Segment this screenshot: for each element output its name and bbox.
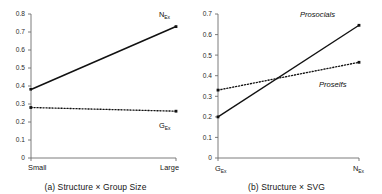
panel-b-ytick-5: 0.2 — [203, 113, 212, 120]
panel-a-ytick-7: 0.1 — [16, 136, 25, 143]
panel-b-plot: 0.7 0.6 0.5 0.4 0.3 0.2 0.1 0 Prosocials… — [191, 0, 382, 176]
panel-a: 0.8 0.7 0.6 0.5 0.4 0.3 0.2 0.1 0 NEx GE… — [0, 0, 191, 194]
panel-a-ytick-1: 0.7 — [16, 28, 25, 35]
panel-a-ytick-2: 0.6 — [16, 46, 25, 53]
panel-b: 0.7 0.6 0.5 0.4 0.3 0.2 0.1 0 Prosocials… — [191, 0, 382, 194]
panel-b-label-prosocials: Prosocials — [300, 10, 335, 19]
panel-a-marker-nex-small — [29, 88, 32, 91]
panel-b-marker-proselfs-left — [217, 89, 220, 92]
panel-a-ytick-0: 0.8 — [16, 10, 25, 17]
panel-b-xlabel-left: GEx — [215, 164, 227, 174]
panel-a-ytick-4: 0.4 — [16, 82, 25, 89]
panel-b-xlabel-right: NEx — [353, 164, 365, 174]
panel-b-ytick-2: 0.5 — [203, 52, 212, 59]
panel-b-ytick-6: 0.1 — [203, 134, 212, 141]
panel-b-marker-proselfs-right — [358, 61, 361, 64]
panel-b-ytick-1: 0.6 — [203, 31, 212, 38]
panel-a-caption: (a) Structure × Group Size — [0, 182, 191, 192]
two-panel-line-chart-figure: 0.8 0.7 0.6 0.5 0.4 0.3 0.2 0.1 0 NEx GE… — [0, 0, 382, 194]
panel-a-ytick-3: 0.5 — [16, 64, 25, 71]
panel-a-marker-gex-small — [29, 106, 32, 109]
panel-b-caption: (b) Structure × SVG — [191, 182, 382, 192]
panel-a-series-solid-nex — [31, 27, 176, 90]
panel-b-marker-prosocials-right — [358, 24, 361, 27]
panel-a-series-dotted-gex — [31, 108, 176, 112]
panel-a-plot: 0.8 0.7 0.6 0.5 0.4 0.3 0.2 0.1 0 NEx GE… — [0, 0, 191, 176]
panel-a-label-nex: NEx — [159, 10, 171, 20]
panel-a-marker-nex-large — [175, 25, 178, 28]
panel-b-label-proselfs: Proselfs — [319, 80, 347, 89]
panel-a-label-gex: GEx — [159, 121, 171, 131]
panel-a-marker-gex-large — [175, 110, 178, 113]
panel-b-marker-prosocials-left — [217, 116, 220, 119]
panel-a-xlabel-right: Large — [160, 163, 179, 172]
panel-a-ytick-6: 0.2 — [16, 118, 25, 125]
panel-b-ytick-7: 0 — [208, 154, 212, 161]
panel-a-ytick-5: 0.3 — [16, 100, 25, 107]
panel-b-ytick-0: 0.7 — [203, 10, 212, 17]
panel-a-xlabel-left: Small — [28, 163, 47, 172]
panel-b-ytick-3: 0.4 — [203, 72, 212, 79]
panel-b-series-solid-prosocials — [218, 25, 359, 117]
panel-b-ytick-4: 0.3 — [203, 93, 212, 100]
panel-a-ytick-8: 0 — [21, 154, 25, 161]
